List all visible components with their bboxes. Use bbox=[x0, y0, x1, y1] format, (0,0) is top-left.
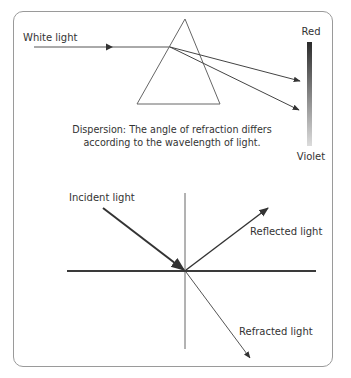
violet-label: Violet bbox=[297, 151, 325, 162]
prism bbox=[137, 19, 220, 104]
refracted-light-label: Refracted light bbox=[239, 326, 313, 337]
reflected-ray bbox=[186, 208, 268, 270]
red-label: Red bbox=[302, 26, 321, 37]
white-light-arrow-icon bbox=[106, 44, 113, 51]
incident-ray bbox=[103, 208, 184, 270]
optics-diagram: White light Red Violet Dispersion: The a… bbox=[0, 0, 351, 378]
violet-ray bbox=[170, 47, 299, 110]
white-light-label: White light bbox=[23, 32, 77, 43]
caption-line-2: according to the wavelength of light. bbox=[83, 137, 260, 148]
reflected-light-label: Reflected light bbox=[250, 226, 322, 237]
reflection-refraction-section: Incident light Reflected light Refracted… bbox=[67, 192, 322, 358]
caption-line-1: Dispersion: The angle of refraction diff… bbox=[72, 124, 272, 135]
refracted-ray bbox=[186, 272, 250, 358]
incident-light-label: Incident light bbox=[69, 192, 135, 203]
spectrum-bar bbox=[307, 42, 312, 146]
red-ray bbox=[170, 47, 300, 81]
dispersion-section: White light Red Violet Dispersion: The a… bbox=[23, 19, 325, 162]
